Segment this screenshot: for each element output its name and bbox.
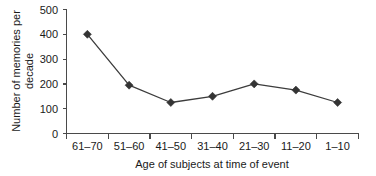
- y-tick-label-100: 100: [40, 103, 58, 115]
- x-tick-label-2: 41–50: [156, 140, 187, 152]
- x-tick-label-0: 61–70: [72, 140, 103, 152]
- x-tick-label-5: 11–20: [281, 140, 311, 152]
- x-tick-label-6: 1–10: [325, 140, 349, 152]
- y-axis-title-line-1: Number of memories per: [10, 10, 22, 132]
- x-axis-tick-labels: 61–70 51–60 41–50 31–40 21–30 11–20 1–10: [72, 140, 350, 152]
- y-tick-label-500: 500: [40, 4, 58, 16]
- x-tick-label-1: 51–60: [114, 140, 145, 152]
- x-tick-label-3: 31–40: [197, 140, 228, 152]
- x-axis-title: Age of subjects at time of event: [135, 158, 288, 170]
- y-tick-label-400: 400: [40, 28, 58, 40]
- y-tick-label-200: 200: [40, 78, 58, 90]
- y-tick-label-0: 0: [52, 128, 58, 140]
- chart-figure: 500 400 300 200 100 0 61–70 51–60 41–50 …: [0, 0, 376, 176]
- x-tick-label-4: 21–30: [239, 140, 270, 152]
- line-chart: 500 400 300 200 100 0 61–70 51–60 41–50 …: [0, 0, 376, 176]
- y-axis-title-line-2: decade: [23, 53, 35, 89]
- y-tick-label-300: 300: [40, 53, 58, 65]
